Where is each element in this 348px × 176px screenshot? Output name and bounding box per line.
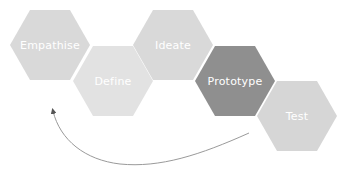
stage-define-label: Define xyxy=(94,75,131,88)
design-thinking-diagram: Empathise Define Ideate Prototype Test xyxy=(0,0,348,176)
stage-ideate-label: Ideate xyxy=(155,39,191,52)
stage-prototype-label: Prototype xyxy=(208,75,263,88)
stage-test-label: Test xyxy=(286,110,308,123)
stage-empathise-label: Empathise xyxy=(20,39,80,52)
stage-empathise-hexagon: Empathise xyxy=(10,10,90,80)
